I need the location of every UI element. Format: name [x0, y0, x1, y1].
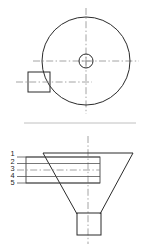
discharge-spout-box	[77, 213, 101, 235]
top-view	[16, 8, 139, 114]
technical-drawing-canvas: 1 2 3 4 5	[0, 0, 146, 246]
front-section-view	[17, 136, 133, 244]
funnel-left-slope	[43, 153, 77, 214]
callout-labels-group: 1 2 3 4 5	[10, 149, 14, 187]
funnel-right-slope	[100, 153, 133, 214]
drawing-svg: 1 2 3 4 5	[0, 0, 146, 246]
callout-label-5: 5	[10, 178, 14, 187]
